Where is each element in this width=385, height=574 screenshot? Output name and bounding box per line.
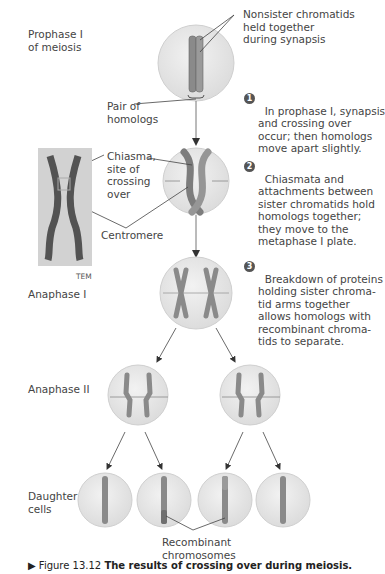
anaphase2-cell-right	[220, 365, 280, 425]
stage-anaphase2: Anaphase II	[28, 383, 90, 396]
caption-title: The results of crossing over during meio…	[104, 560, 352, 571]
label-tem: TEM	[76, 272, 92, 281]
step-3: 3Breakdown of proteins holding sister ch…	[244, 260, 383, 348]
step-2: 2Chiasmata and attachments between siste…	[244, 160, 375, 248]
step-2-text: Chiasmata and attachments between sister…	[258, 173, 375, 248]
step-3-text: Breakdown of proteins holding sister chr…	[258, 273, 383, 348]
stage-prophase: Prophase I of meiosis	[28, 28, 83, 53]
label-centromere: Centromere	[101, 229, 163, 242]
label-pair-homologs: Pair of homologs	[107, 100, 158, 125]
prophase-cell	[158, 25, 234, 101]
label-recombinant: Recombinant chromosomes	[162, 536, 236, 561]
tem-micrograph	[38, 148, 92, 266]
step-3-badge: 3	[244, 261, 255, 272]
step-1-text: In prophase I, synapsis and crossing ove…	[258, 105, 385, 155]
label-nonsister: Nonsister chromatids held together durin…	[243, 8, 355, 46]
step-2-badge: 2	[244, 161, 255, 172]
daughter-cells	[78, 473, 310, 527]
label-chiasma: Chiasma, site of crossing over	[107, 150, 156, 200]
metaphase-cell	[163, 148, 229, 214]
figure-caption: ▶ Figure 13.12 The results of crossing o…	[28, 560, 352, 571]
anaphase1-cell	[160, 257, 232, 329]
caption-prefix: ▶ Figure 13.12	[28, 560, 104, 571]
stage-daughter: Daughter cells	[28, 490, 77, 515]
anaphase2-cell-left	[108, 365, 168, 425]
step-1: 1In prophase I, synapsis and crossing ov…	[244, 92, 385, 155]
stage-anaphase1: Anaphase I	[28, 288, 86, 301]
step-1-badge: 1	[244, 93, 255, 104]
